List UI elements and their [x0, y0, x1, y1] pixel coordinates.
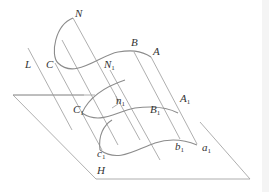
label-a: A [152, 45, 160, 57]
label-n: N [74, 7, 83, 19]
label-n1: N1 [103, 58, 115, 72]
generator-mid [110, 70, 160, 160]
label-l: L [24, 58, 31, 70]
label-b: B [131, 36, 138, 48]
generator-inner [62, 40, 118, 145]
label-h: H [96, 164, 106, 176]
label-c1-upper: C1 [73, 103, 84, 117]
label-c: C [46, 58, 54, 70]
label-b1: B1 [150, 103, 161, 117]
label-a1-lower: a1 [202, 141, 212, 155]
curve-c1-middle [82, 107, 178, 118]
label-a1: A1 [179, 92, 191, 106]
label-b1-lower: b1 [175, 140, 185, 154]
curve-c1-bottom-back [100, 120, 112, 150]
cylindrical-surface-diagram: N B A L C N1 n1 B1 A1 C1 c1 b1 a1 H [0, 0, 269, 192]
label-c1-lower: c1 [97, 147, 106, 161]
plane-h-outline-left [13, 95, 250, 179]
